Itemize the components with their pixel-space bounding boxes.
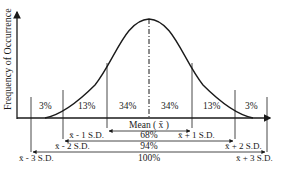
minus-2sd-label: x̄ - 2 S.D. [55,141,90,151]
plus-1sd-label: x̄ + 1 S.D. [178,130,215,140]
minus-3sd-label: x̄ - 3 S.D. [19,153,54,163]
region-percent: 13% [78,101,96,111]
region-percent: 34% [161,101,179,111]
region-percent: 3% [39,101,52,111]
three-sd-percent: 100% [138,153,160,163]
region-percent: 13% [203,101,221,111]
region-percent: 3% [245,101,258,111]
two-sd-percent: 94% [140,141,158,151]
plus-3sd-label: x̄ + 3 S.D. [236,153,273,163]
minus-1sd-label: x̄ - 1 S.D. [69,130,104,140]
normal-distribution-diagram: Frequency of Occurrence 3% 13% 34% 34% 1… [0,0,283,170]
y-axis-label: Frequency of Occurrence [2,8,13,110]
region-percent: 34% [119,101,137,111]
plus-2sd-label: x̄ + 2 S.D. [225,141,262,151]
one-sd-percent: 68% [140,130,158,140]
